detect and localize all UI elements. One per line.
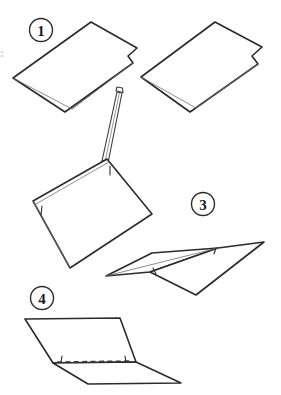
step-3-number: 3 bbox=[199, 197, 207, 213]
edge-artifact-mark bbox=[1, 52, 3, 56]
step-4-number: 4 bbox=[38, 291, 46, 307]
step-1-number: 1 bbox=[37, 23, 45, 39]
step-marker-3: 3 bbox=[192, 193, 215, 216]
pencil-center-line bbox=[105, 93, 120, 163]
step-2-paper-face bbox=[33, 159, 152, 268]
instruction-diagram: 1 3 bbox=[0, 0, 281, 395]
step-marker-1: 1 bbox=[30, 19, 53, 42]
step-4-paper bbox=[25, 318, 181, 384]
step-4-upper-panel bbox=[25, 318, 136, 363]
step-4-lower-panel bbox=[53, 362, 181, 384]
step-2-paper bbox=[33, 159, 152, 268]
step-marker-4: 4 bbox=[31, 287, 54, 310]
diagram-canvas: 1 3 bbox=[0, 0, 281, 395]
right-paper-top-face bbox=[141, 22, 262, 112]
pencil-tool bbox=[102, 87, 123, 169]
step-3-paper bbox=[106, 242, 264, 295]
step-4-crease-line bbox=[57, 361, 132, 362]
pencil-ferrule bbox=[116, 87, 123, 93]
step-1-right-paper bbox=[141, 22, 262, 112]
